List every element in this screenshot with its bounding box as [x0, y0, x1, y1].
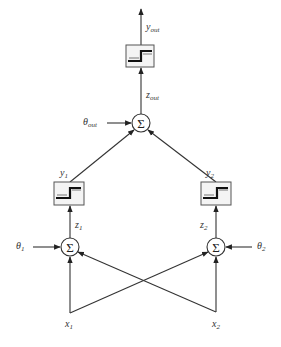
hidden1-activation-box [54, 182, 84, 205]
edge-x1-to-n2 [70, 252, 208, 313]
hidden1-sum-node: Σ [61, 238, 79, 256]
neural-network-diagram: yout zout Σ θout y1 z1 Σ θ1 y2 z2 Σ [0, 0, 281, 347]
output-sum-node: Σ [132, 114, 150, 132]
sigma-icon: Σ [66, 240, 74, 255]
hidden2-sum-node: Σ [207, 238, 225, 256]
hidden2-y-label: y2 [205, 167, 214, 180]
edge-n1-to-out [70, 130, 134, 182]
sigma-icon: Σ [212, 240, 220, 255]
edge-x2-to-n1 [78, 252, 216, 312]
hidden1-theta-label: θ1 [16, 240, 24, 253]
hidden2-activation-box [201, 182, 231, 205]
output-theta-label: θout [83, 116, 98, 129]
sigma-icon: Σ [137, 116, 145, 131]
output-y-label: yout [145, 21, 160, 34]
output-activation-box [126, 45, 154, 67]
output-z-label: zout [145, 89, 160, 102]
hidden1-z-label: z1 [74, 219, 82, 232]
input-x1-label: x1 [64, 318, 73, 331]
hidden1-y-label: y1 [59, 167, 68, 180]
hidden2-z-label: z2 [199, 219, 208, 232]
hidden2-theta-label: θ2 [257, 240, 266, 253]
input-x2-label: x2 [211, 318, 220, 331]
